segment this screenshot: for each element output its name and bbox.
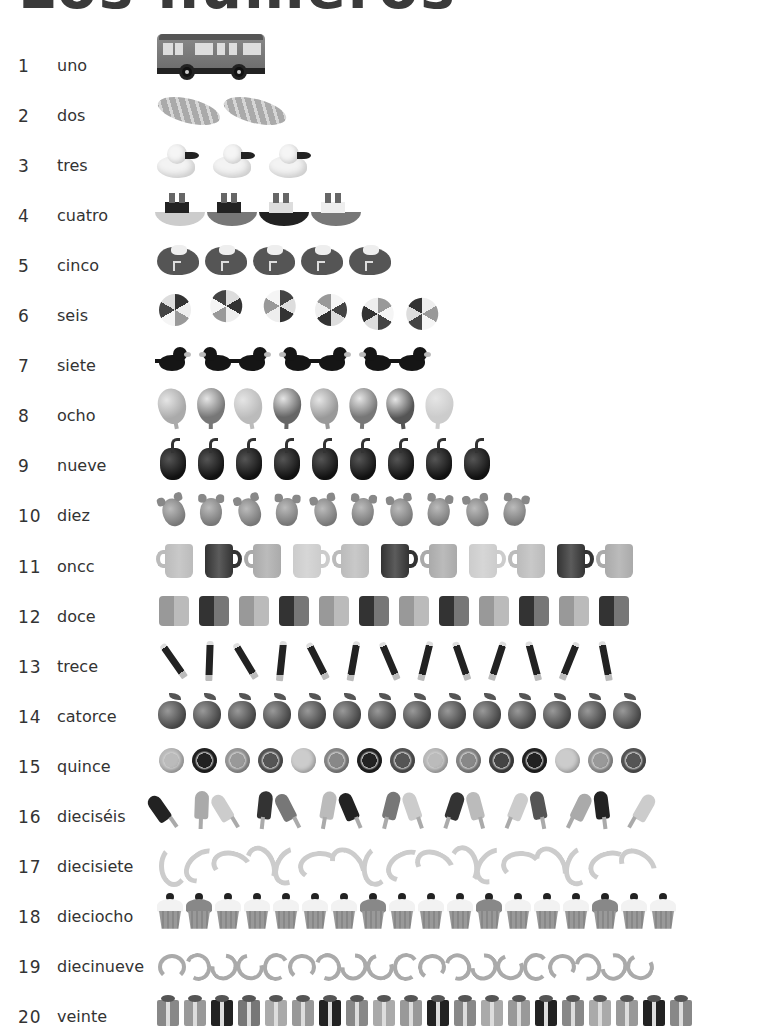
worm-icon — [571, 942, 597, 980]
mug-icon — [419, 541, 463, 581]
popsicle-icon — [341, 789, 372, 833]
apple-icon — [260, 691, 295, 731]
object-group — [155, 238, 395, 282]
popsicle-icon — [372, 789, 403, 833]
pencil-icon — [371, 639, 407, 683]
number-word: oncc — [57, 557, 95, 576]
button-icon — [254, 744, 287, 778]
object-group — [155, 839, 648, 883]
bird-icon — [155, 343, 195, 377]
number-word: diecinueve — [57, 957, 144, 976]
bus-icon — [155, 32, 267, 82]
boat-icon — [311, 190, 363, 230]
boat-icon — [207, 190, 259, 230]
boat-icon — [155, 190, 207, 230]
worm-icon — [389, 942, 415, 980]
gift-icon — [290, 992, 317, 1030]
banana-icon — [300, 841, 329, 881]
number-digit: 5 — [18, 256, 48, 276]
pencil-icon — [227, 639, 263, 683]
popsicle-icon — [434, 789, 465, 833]
banana-icon — [416, 841, 445, 881]
cupcake-icon — [300, 891, 329, 931]
number-row: 20veinte — [0, 1007, 778, 1035]
number-row: 1uno — [0, 56, 778, 106]
popsicle-icon — [186, 789, 217, 833]
apple-icon — [470, 691, 505, 731]
shoe-icon — [251, 241, 299, 279]
cupcake-icon — [619, 891, 648, 931]
mouse-icon — [303, 487, 349, 535]
number-digit: 14 — [18, 707, 48, 727]
balloon-icon — [151, 385, 197, 436]
apple-icon — [575, 691, 610, 731]
mug-icon — [463, 541, 507, 581]
gift-icon — [668, 992, 695, 1030]
pencil-icon — [155, 639, 191, 683]
mouse-icon — [226, 486, 273, 535]
boat-icon — [259, 190, 311, 230]
shoe-icon — [155, 241, 203, 279]
number-digit: 19 — [18, 957, 48, 977]
number-digit: 15 — [18, 757, 48, 777]
worm-icon — [337, 942, 363, 980]
number-word: seis — [57, 306, 88, 325]
gift-icon — [371, 992, 398, 1030]
popsicle-icon — [527, 789, 558, 833]
beach-ball-icon — [201, 280, 257, 340]
beach-ball-icon — [348, 280, 404, 340]
worm-icon — [363, 942, 389, 980]
cupcake-icon — [387, 891, 416, 931]
number-word: dieciséis — [57, 807, 126, 826]
apple-icon — [365, 691, 400, 731]
button-icon — [155, 744, 188, 778]
object-group — [155, 939, 649, 983]
pencil-icon — [191, 639, 227, 683]
worm-icon — [415, 942, 441, 980]
number-word: siete — [57, 356, 96, 375]
pepper-icon — [269, 438, 307, 482]
beach-ball-icon — [302, 292, 351, 328]
block-icon — [515, 593, 555, 629]
number-digit: 13 — [18, 657, 48, 677]
banana-icon — [445, 841, 474, 881]
gift-icon — [533, 992, 560, 1030]
pepper-icon — [193, 438, 231, 482]
number-word: dieciocho — [57, 907, 133, 926]
bread-icon — [221, 95, 287, 125]
button-icon — [485, 744, 518, 778]
button-icon — [287, 744, 320, 778]
balloon-icon — [193, 388, 232, 432]
number-digit: 20 — [18, 1007, 48, 1027]
worm-icon — [285, 942, 311, 980]
pencil-icon — [407, 639, 443, 683]
number-digit: 16 — [18, 807, 48, 827]
mug-icon — [331, 541, 375, 581]
block-icon — [155, 593, 195, 629]
popsicle-icon — [310, 789, 341, 833]
number-digit: 8 — [18, 406, 48, 426]
number-row: 3tres — [0, 156, 778, 206]
number-digit: 17 — [18, 857, 48, 877]
apple-icon — [330, 691, 365, 731]
number-digit: 7 — [18, 356, 48, 376]
worm-icon — [493, 942, 519, 980]
button-icon — [584, 744, 617, 778]
mouse-icon — [150, 486, 198, 536]
worm-icon — [259, 942, 285, 980]
gift-icon — [209, 992, 236, 1030]
cupcake-icon — [242, 891, 271, 931]
mouse-icon — [268, 489, 308, 531]
banana-icon — [184, 841, 213, 881]
object-group — [155, 338, 435, 382]
mug-icon — [287, 541, 331, 581]
banana-icon — [532, 841, 561, 881]
balloon-icon — [380, 386, 424, 435]
number-digit: 3 — [18, 156, 48, 176]
popsicle-icon — [589, 789, 620, 833]
number-digit: 9 — [18, 456, 48, 476]
button-icon — [221, 744, 254, 778]
apple-icon — [295, 691, 330, 731]
gift-icon — [236, 992, 263, 1030]
balloon-icon — [419, 387, 460, 434]
